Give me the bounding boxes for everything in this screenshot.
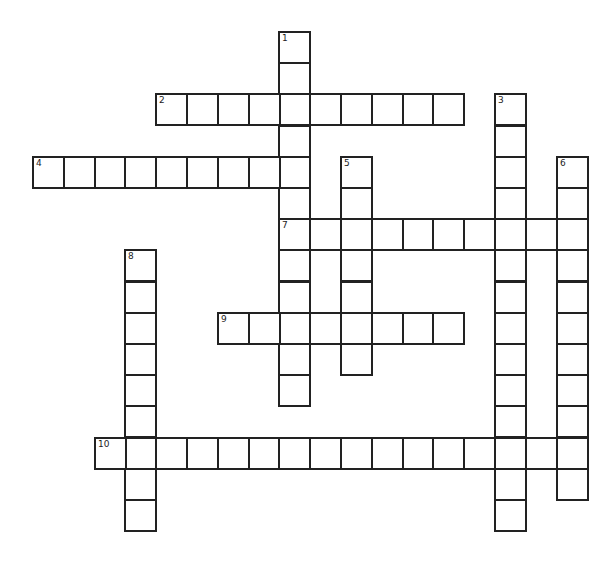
crossword-cell[interactable] [494,218,527,251]
crossword-cell[interactable] [340,93,373,126]
crossword-cell[interactable] [186,93,219,126]
crossword-cell[interactable] [556,281,589,314]
crossword-cell[interactable]: 10 [94,437,127,470]
crossword-cell[interactable]: 2 [155,93,188,126]
crossword-cell[interactable] [278,437,311,470]
crossword-cell[interactable] [124,468,157,501]
crossword-cell[interactable]: 5 [340,156,373,189]
crossword-cell[interactable] [278,281,311,314]
crossword-cell[interactable] [124,499,157,532]
crossword-cell[interactable] [402,93,435,126]
crossword-cell[interactable] [432,437,465,470]
crossword-cell[interactable] [278,156,311,189]
crossword-cell[interactable]: 8 [124,249,157,282]
crossword-cell[interactable] [278,125,311,158]
crossword-cell[interactable] [556,312,589,345]
clue-number: 10 [98,439,109,449]
crossword-cell[interactable] [340,437,373,470]
crossword-cell[interactable] [340,343,373,376]
crossword-cell[interactable] [556,343,589,376]
crossword-cell[interactable] [494,374,527,407]
crossword-cell[interactable] [309,218,342,251]
crossword-cell[interactable]: 1 [278,31,311,64]
crossword-cell[interactable] [463,218,496,251]
crossword-cell[interactable] [155,156,188,189]
crossword-cell[interactable] [278,343,311,376]
crossword-cell[interactable] [94,156,127,189]
crossword-cell[interactable] [402,218,435,251]
crossword-cell[interactable] [124,281,157,314]
crossword-cell[interactable] [432,312,465,345]
crossword-cell[interactable] [217,437,250,470]
crossword-cell[interactable] [63,156,96,189]
crossword-cell[interactable] [402,312,435,345]
crossword-cell[interactable] [494,468,527,501]
crossword-cell[interactable] [494,405,527,438]
clue-number: 4 [36,158,42,168]
crossword-cell[interactable] [556,218,589,251]
crossword-cell[interactable] [278,62,311,95]
crossword-cell[interactable] [124,437,157,470]
crossword-cell[interactable] [278,187,311,220]
crossword-cell[interactable] [340,312,373,345]
crossword-cell[interactable] [155,437,188,470]
crossword-cell[interactable] [494,343,527,376]
crossword-cell[interactable] [556,187,589,220]
crossword-cell[interactable] [371,437,404,470]
crossword-cell[interactable] [340,218,373,251]
crossword-cell[interactable] [186,156,219,189]
crossword-cell[interactable] [278,93,311,126]
crossword-cell[interactable] [494,249,527,282]
crossword-cell[interactable] [124,405,157,438]
crossword-cell[interactable] [340,281,373,314]
crossword-cell[interactable] [278,312,311,345]
crossword-cell[interactable] [494,125,527,158]
crossword-cell[interactable] [556,374,589,407]
crossword-cell[interactable] [556,405,589,438]
clue-number: 8 [128,251,134,261]
crossword-cell[interactable] [494,312,527,345]
crossword-cell[interactable]: 6 [556,156,589,189]
crossword-cell[interactable] [186,437,219,470]
crossword-cell[interactable]: 3 [494,93,527,126]
clue-number: 7 [282,220,288,230]
crossword-cell[interactable] [124,343,157,376]
crossword-cell[interactable] [340,187,373,220]
crossword-cell[interactable] [248,93,281,126]
crossword-cell[interactable] [124,312,157,345]
crossword-cell[interactable]: 7 [278,218,311,251]
crossword-cell[interactable] [309,312,342,345]
crossword-cell[interactable] [371,312,404,345]
crossword-cell[interactable] [278,249,311,282]
crossword-cell[interactable] [525,437,558,470]
crossword-cell[interactable] [402,437,435,470]
crossword-cell[interactable] [248,312,281,345]
crossword-cell[interactable] [124,374,157,407]
crossword-cell[interactable] [556,437,589,470]
crossword-cell[interactable] [556,468,589,501]
crossword-cell[interactable] [463,437,496,470]
crossword-cell[interactable] [309,93,342,126]
crossword-cell[interactable] [217,156,250,189]
crossword-cell[interactable] [494,156,527,189]
crossword-cell[interactable] [371,93,404,126]
crossword-cell[interactable]: 4 [32,156,65,189]
crossword-cell[interactable] [124,156,157,189]
crossword-cell[interactable] [525,218,558,251]
crossword-cell[interactable] [494,437,527,470]
crossword-cell[interactable] [309,437,342,470]
crossword-cell[interactable] [556,249,589,282]
clue-number: 1 [282,33,288,43]
crossword-cell[interactable] [432,218,465,251]
crossword-cell[interactable]: 9 [217,312,250,345]
crossword-cell[interactable] [278,374,311,407]
crossword-cell[interactable] [494,499,527,532]
crossword-cell[interactable] [494,281,527,314]
crossword-cell[interactable] [432,93,465,126]
crossword-cell[interactable] [340,249,373,282]
crossword-cell[interactable] [494,187,527,220]
crossword-cell[interactable] [248,437,281,470]
crossword-cell[interactable] [217,93,250,126]
crossword-cell[interactable] [248,156,281,189]
crossword-cell[interactable] [371,218,404,251]
